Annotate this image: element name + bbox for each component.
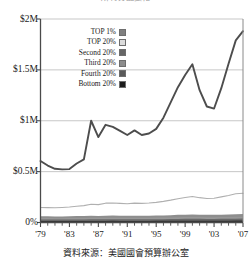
x-axis-tick-label: '07 (238, 229, 249, 239)
legend-color-swatch (119, 39, 126, 46)
legend-item-label: TOP 1% (91, 27, 119, 37)
x-axis-tick-label: '79 (35, 229, 46, 239)
x-axis-tick-label: '95 (151, 229, 162, 239)
legend-color-swatch (119, 60, 126, 67)
legend-item[interactable]: TOP 20% (56, 37, 126, 47)
legend-item[interactable]: Third 20% (56, 58, 126, 68)
x-axis-tick-label: '83 (64, 229, 75, 239)
legend-item[interactable]: Bottom 20% (56, 79, 126, 89)
x-axis-tick-label: '87 (93, 229, 104, 239)
legend-item[interactable]: Fourth 20% (56, 69, 126, 79)
x-axis-tick-label: '99 (180, 229, 191, 239)
x-axis-tick-label: '03 (209, 229, 220, 239)
legend-item[interactable]: TOP 1% (56, 27, 126, 37)
legend-item-label: Second 20% (79, 48, 119, 58)
legend-item-label: Third 20% (84, 58, 119, 68)
legend-color-swatch (119, 70, 126, 77)
source-caption: 資料來源：美國國會預算辦公室 (0, 247, 252, 259)
legend-item[interactable]: Second 20% (56, 48, 126, 58)
chart-figure: 所得分配變化 $2M$1.5M$1M$0.5M0% '79'83'87'91'9… (0, 0, 252, 266)
chart-legend: TOP 1%TOP 20%Second 20%Third 20%Fourth 2… (56, 27, 126, 89)
x-axis-labels: '79'83'87'91'95'99'03'07 (0, 0, 252, 266)
legend-color-swatch (119, 81, 126, 88)
legend-item-label: Bottom 20% (78, 79, 119, 89)
legend-item-label: Fourth 20% (81, 69, 119, 79)
legend-item-label: TOP 20% (87, 37, 119, 47)
legend-color-swatch (119, 29, 126, 36)
legend-color-swatch (119, 49, 126, 56)
x-axis-tick-label: '91 (122, 229, 133, 239)
